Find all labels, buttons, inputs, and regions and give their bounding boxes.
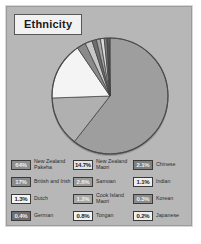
legend-swatch: 1.3% [11, 194, 31, 204]
legend-item: 14.7%New Zealand Maori [73, 156, 133, 173]
legend: 64%New Zealand Pakeha14.7%New Zealand Ma… [11, 156, 189, 226]
legend-swatch: 0.2% [133, 211, 153, 221]
legend-item: 1.1%Indian [133, 173, 189, 190]
legend-label: British and Irish [34, 179, 71, 185]
page-title: Ethnicity [24, 18, 72, 30]
legend-item: 0.8%Tongan [73, 207, 133, 224]
legend-swatch: 64% [11, 160, 31, 170]
legend-item: 2.1%Chinese [133, 156, 189, 173]
legend-label: Chinese [156, 162, 175, 168]
legend-swatch: 14.7% [73, 160, 93, 170]
legend-swatch: 0.3% [133, 194, 153, 204]
legend-label: Samoan [96, 179, 116, 185]
legend-swatch: 17% [11, 177, 31, 187]
legend-item: 64%New Zealand Pakeha [11, 156, 73, 173]
legend-swatch: 0.4% [11, 211, 31, 221]
legend-item: 2.6%Samoan [73, 173, 133, 190]
legend-item: 17%British and Irish [11, 173, 73, 190]
legend-item: 0.3%Korean [133, 190, 189, 207]
legend-label: Tongan [96, 213, 113, 219]
legend-label: Japanese [156, 213, 179, 219]
legend-swatch: 2.6% [73, 177, 93, 187]
legend-swatch: 2.1% [133, 160, 153, 170]
legend-swatch: 1.2% [73, 194, 93, 204]
legend-item: 1.3%Dutch [11, 190, 73, 207]
legend-label: Indian [156, 179, 170, 185]
legend-label: German [34, 213, 53, 219]
legend-label: Dutch [34, 196, 48, 202]
chart-panel: Ethnicity 64%New Zealand Pakeha14.7%New … [5, 5, 193, 227]
ethnicity-figure: Ethnicity 64%New Zealand Pakeha14.7%New … [0, 0, 201, 244]
legend-item: 0.4%German [11, 207, 73, 224]
legend-label: New Zealand Pakeha [34, 159, 72, 171]
pie-chart [48, 34, 172, 158]
legend-label: Cook Island Maori [96, 193, 133, 205]
legend-label: Korean [156, 196, 173, 202]
legend-swatch: 1.1% [133, 177, 153, 187]
chart-title-box: Ethnicity [14, 14, 82, 35]
legend-item: 0.2%Japanese [133, 207, 189, 224]
legend-swatch: 0.8% [73, 211, 93, 221]
pie-slice-group [52, 38, 168, 154]
legend-label: New Zealand Maori [96, 159, 133, 171]
legend-item: 1.2%Cook Island Maori [73, 190, 133, 207]
